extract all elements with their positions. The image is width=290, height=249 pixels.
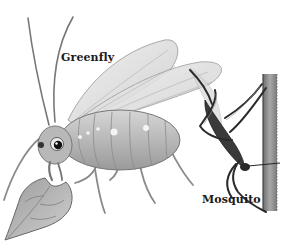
illustration-canvas: Greenfly Mosquito bbox=[0, 0, 290, 249]
plant-stem bbox=[263, 74, 277, 211]
greenfly-body bbox=[60, 110, 180, 170]
mosquito-label: Mosquito bbox=[202, 193, 261, 206]
insects-illustration bbox=[0, 0, 290, 249]
greenfly-head bbox=[38, 126, 72, 180]
greenfly-antennae bbox=[28, 17, 73, 125]
leaf bbox=[5, 178, 72, 240]
greenfly-label: Greenfly bbox=[61, 51, 114, 64]
